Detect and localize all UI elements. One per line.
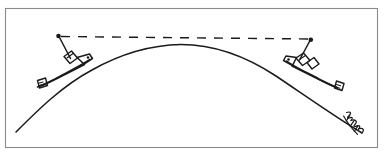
- diagram-border: [6, 9, 378, 148]
- left-ship-antenna-dot: [56, 34, 61, 39]
- right-ship-porthole: [287, 58, 290, 61]
- left-ship-porthole: [87, 56, 90, 59]
- right-ship-antenna-dot: [309, 38, 314, 43]
- earth-curvature-ship-diagram: Two ships separated by the curvature of …: [0, 0, 384, 154]
- diagram-canvas: Two ships separated by the curvature of …: [0, 0, 384, 154]
